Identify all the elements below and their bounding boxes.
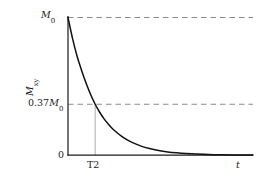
origin-label: 0 — [58, 150, 64, 160]
chart-background — [0, 0, 268, 180]
t2-tick-label: T2 — [87, 160, 99, 170]
chart-canvas — [0, 0, 268, 180]
decay-value-label: 0.37M0 — [28, 98, 63, 108]
time-axis-label: t — [236, 160, 240, 170]
m0-axis-label: M0 — [41, 10, 55, 20]
magnetization-axis-label: Mxy — [25, 79, 35, 96]
exponential-decay-chart: M0 0.37M0 0 T2 t Mxy — [0, 0, 268, 180]
